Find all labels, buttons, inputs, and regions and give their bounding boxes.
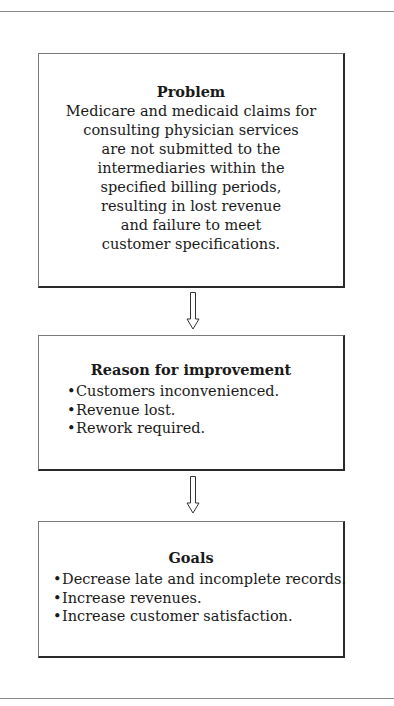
- goals-box: Goals •Decrease late and incomplete reco…: [38, 521, 345, 658]
- list-item: •Revenue lost.: [67, 401, 343, 420]
- down-arrow-icon: [186, 292, 200, 330]
- top-rule: [0, 11, 394, 12]
- list-item: •Customers inconvenienced.: [67, 382, 343, 401]
- problem-line: Medicare and medicaid claims for: [45, 102, 337, 121]
- problem-line: and failure to meet: [45, 216, 337, 235]
- list-item-text: Increase customer satisfaction.: [62, 608, 293, 624]
- bullet-icon: •: [67, 382, 76, 401]
- problem-line: intermediaries within the: [45, 159, 337, 178]
- list-item: •Increase customer satisfaction.: [53, 607, 343, 626]
- reason-box: Reason for improvement •Customers inconv…: [38, 335, 345, 471]
- problem-line: customer specifications.: [45, 235, 337, 254]
- goals-list: •Decrease late and incomplete records. •…: [39, 570, 343, 626]
- list-item-text: Revenue lost.: [76, 402, 175, 418]
- bullet-icon: •: [53, 607, 62, 626]
- reason-title: Reason for improvement: [39, 361, 343, 379]
- down-arrow-icon: [186, 476, 200, 514]
- problem-box: Problem Medicare and medicaid claims for…: [38, 53, 345, 288]
- list-item-text: Customers inconvenienced.: [76, 383, 279, 399]
- list-item-text: Decrease late and incomplete records.: [62, 571, 346, 587]
- bullet-icon: •: [53, 570, 62, 589]
- bottom-rule: [0, 698, 394, 699]
- problem-line: are not submitted to the: [45, 140, 337, 159]
- list-item: •Rework required.: [67, 419, 343, 438]
- goals-title: Goals: [39, 549, 343, 567]
- problem-line: specified billing periods,: [45, 178, 337, 197]
- problem-line: consulting physician services: [45, 121, 337, 140]
- list-item-text: Rework required.: [76, 420, 205, 436]
- bullet-icon: •: [67, 419, 76, 438]
- problem-title: Problem: [39, 83, 343, 101]
- problem-line: resulting in lost revenue: [45, 197, 337, 216]
- problem-text: Medicare and medicaid claims for consult…: [45, 102, 337, 254]
- list-item: •Decrease late and incomplete records.: [53, 570, 343, 589]
- list-item: •Increase revenues.: [53, 589, 343, 608]
- reason-list: •Customers inconvenienced. •Revenue lost…: [39, 382, 343, 438]
- list-item-text: Increase revenues.: [62, 590, 202, 606]
- bullet-icon: •: [53, 589, 62, 608]
- bullet-icon: •: [67, 401, 76, 420]
